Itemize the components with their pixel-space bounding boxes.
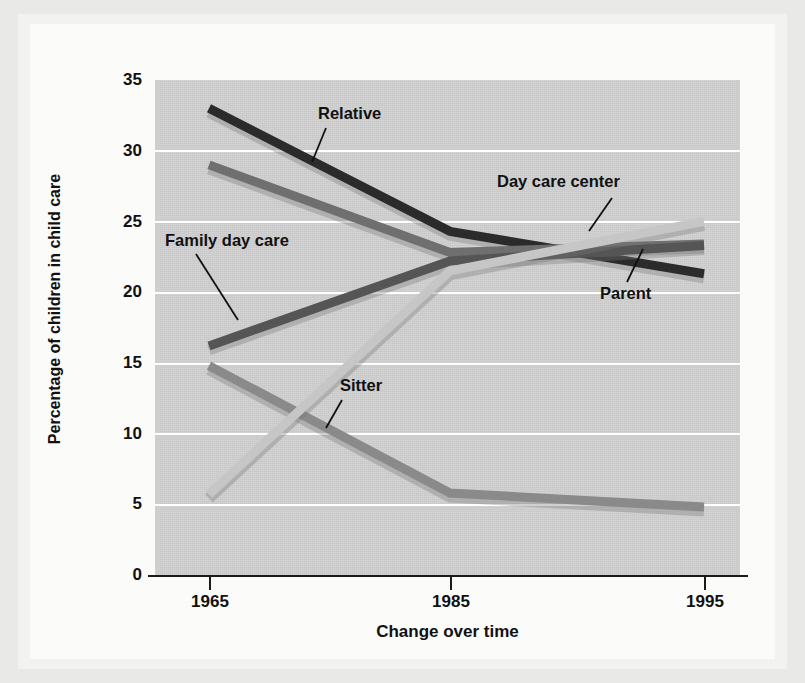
data-series-layer <box>155 80 740 575</box>
y-tick-20: 20 <box>123 282 142 302</box>
x-tick-label-1995: 1995 <box>686 592 724 612</box>
y-tick-10: 10 <box>123 424 142 444</box>
series-label-parent: Parent <box>600 284 651 303</box>
plot-area <box>155 80 740 575</box>
y-tick-0: 0 <box>133 565 142 585</box>
chart-page: 35 30 25 20 15 10 5 0 1965 1985 1995 Cha… <box>0 0 805 683</box>
y-tick-30: 30 <box>123 141 142 161</box>
x-tick-1985 <box>450 577 452 590</box>
y-tick-35: 35 <box>123 70 142 90</box>
x-tick-label-1985: 1985 <box>432 592 470 612</box>
series-label-sitter: Sitter <box>340 376 382 395</box>
x-tick-1995 <box>704 577 706 590</box>
y-tick-5: 5 <box>133 494 142 514</box>
y-tick-25: 25 <box>123 212 142 232</box>
y-axis-title: Percentage of children in child care <box>46 109 64 509</box>
x-tick-label-1965: 1965 <box>191 592 229 612</box>
x-tick-1965 <box>209 577 211 590</box>
series-label-relative: Relative <box>318 104 381 123</box>
x-axis-title: Change over time <box>155 622 740 642</box>
x-axis-line <box>148 575 748 577</box>
y-axis-tick-labels: 35 30 25 20 15 10 5 0 <box>98 0 142 683</box>
series-label-day-care-center: Day care center <box>497 172 620 191</box>
y-tick-15: 15 <box>123 353 142 373</box>
series-label-family-day-care: Family day care <box>165 231 289 250</box>
